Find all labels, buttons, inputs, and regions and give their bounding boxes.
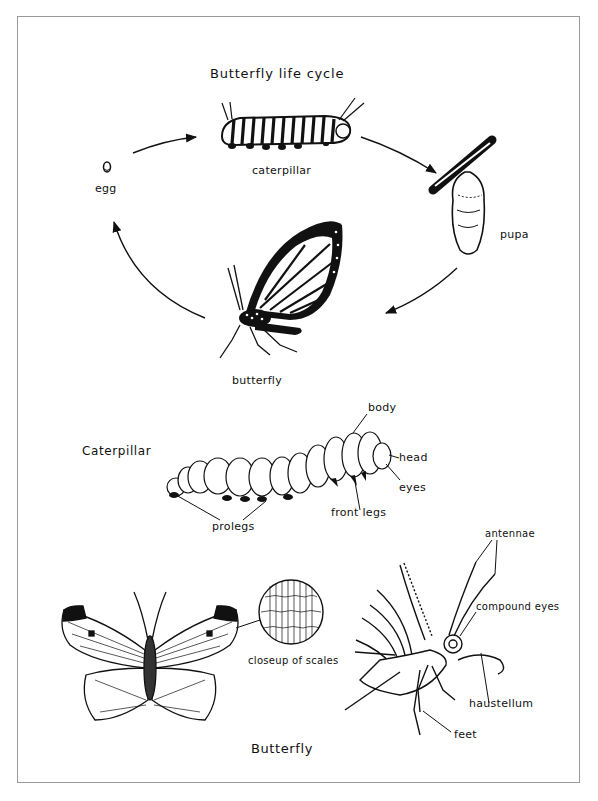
label-eyes: eyes bbox=[399, 481, 426, 494]
scales-closeup-illustration bbox=[236, 580, 323, 644]
label-prolegs: prolegs bbox=[212, 520, 255, 533]
caterpillar-section-title: Caterpillar bbox=[82, 444, 151, 458]
stage-label-butterfly: butterfly bbox=[232, 374, 282, 387]
white-butterfly-illustration bbox=[62, 592, 238, 720]
label-body: body bbox=[368, 401, 396, 414]
label-compound-eyes: compound eyes bbox=[476, 601, 559, 612]
diagram-artwork bbox=[0, 0, 598, 801]
label-closeup-of-scales: closeup of scales bbox=[248, 655, 339, 666]
label-feet: feet bbox=[454, 728, 477, 741]
arrow-caterpillar-to-pupa bbox=[361, 137, 436, 173]
arrow-egg-to-caterpillar bbox=[133, 137, 196, 153]
stage-label-pupa: pupa bbox=[500, 228, 529, 241]
label-front-legs: front legs bbox=[331, 506, 386, 519]
caterpillar-anatomy-illustration bbox=[167, 432, 391, 502]
label-haustellum: haustellum bbox=[469, 697, 533, 710]
butterfly-section-title: Butterfly bbox=[251, 741, 313, 756]
label-head: head bbox=[399, 451, 428, 464]
arrow-pupa-to-butterfly bbox=[386, 268, 457, 313]
stage-label-egg: egg bbox=[95, 182, 117, 195]
arrow-butterfly-to-egg bbox=[114, 222, 205, 318]
monarch-butterfly-illustration bbox=[220, 221, 343, 358]
stage-label-caterpillar: caterpillar bbox=[252, 164, 311, 177]
striped-caterpillar-illustration bbox=[222, 98, 364, 150]
pupa-illustration bbox=[433, 140, 492, 254]
life-cycle-title: Butterfly life cycle bbox=[210, 66, 344, 81]
egg-illustration bbox=[104, 162, 111, 172]
label-antennae: antennae bbox=[485, 528, 535, 539]
